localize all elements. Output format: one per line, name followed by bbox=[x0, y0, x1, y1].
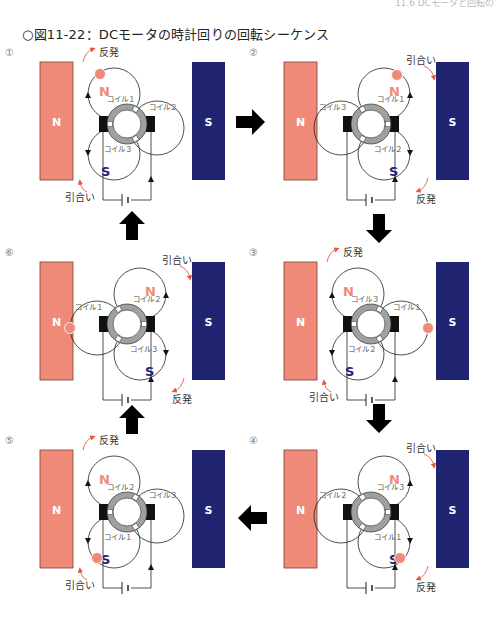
motor-panel-5: ⑤NSコイル２コイル３コイル１NS反発引合い bbox=[5, 434, 225, 594]
coil-bottom-label: コイル１ bbox=[104, 533, 132, 542]
coil-bottom-label: コイル２ bbox=[374, 145, 402, 154]
repel-label: 反発 bbox=[416, 193, 436, 205]
rotor-north-label: N bbox=[389, 84, 400, 99]
coil-side-label: コイル２ bbox=[149, 103, 177, 112]
attract-label: 引合い bbox=[65, 579, 95, 591]
sequence-arrow-icon bbox=[236, 109, 265, 135]
rotor-north-label: N bbox=[145, 284, 156, 299]
arrow-1-to-2 bbox=[236, 109, 265, 135]
motor-sequence-diagram: ①NSコイル１コイル２コイル３NS反発引合い②NSコイル１コイル３コイル２NS引… bbox=[0, 0, 498, 621]
coil-top-label: コイル３ bbox=[351, 295, 379, 304]
repel-arrow-icon bbox=[83, 437, 93, 450]
commutator-gap bbox=[386, 510, 391, 515]
arrow-6-to-1 bbox=[119, 211, 145, 240]
motor-panel-4: ④NSコイル３コイル２コイル１NS引合い反発 bbox=[249, 435, 469, 594]
south-label: S bbox=[449, 316, 457, 329]
brush-right bbox=[390, 116, 399, 132]
step-number: ⑤ bbox=[5, 435, 14, 446]
brush-right bbox=[390, 316, 399, 332]
sequence-arrow-icon bbox=[119, 405, 145, 434]
step-number: ① bbox=[5, 47, 14, 58]
arrow-4-to-5 bbox=[238, 505, 267, 531]
pole-marker bbox=[92, 553, 103, 564]
sequence-arrow-icon bbox=[366, 404, 392, 433]
brush-left bbox=[343, 116, 352, 132]
coil-bottom-label: コイル３ bbox=[104, 145, 132, 154]
rotor-north-label: N bbox=[99, 84, 110, 99]
step-number: ④ bbox=[249, 435, 258, 446]
pole-marker bbox=[392, 70, 403, 81]
coil-side-label: コイル２ bbox=[319, 491, 347, 500]
north-label: N bbox=[296, 116, 305, 129]
attract-label: 引合い bbox=[406, 442, 436, 454]
attract-arrow-icon bbox=[424, 454, 434, 466]
sequence-arrow-icon bbox=[238, 505, 267, 531]
coil-bottom-label: コイル２ bbox=[348, 345, 376, 354]
arrow-3-to-4 bbox=[366, 404, 392, 433]
north-label: N bbox=[52, 116, 61, 129]
motor-panel-2: ②NSコイル１コイル３コイル２NS引合い反発 bbox=[249, 47, 469, 206]
brush-left bbox=[343, 316, 352, 332]
coil-side-label: コイル３ bbox=[319, 103, 347, 112]
repel-label: 反発 bbox=[172, 393, 192, 405]
repel-label: 反発 bbox=[99, 46, 119, 58]
brush-left bbox=[343, 504, 352, 520]
sequence-arrow-icon bbox=[366, 214, 392, 243]
attract-arrow-icon bbox=[80, 182, 87, 192]
coil-top-label: コイル２ bbox=[107, 483, 135, 492]
sequence-arrow-icon bbox=[119, 211, 145, 240]
rotor-south-label: S bbox=[345, 364, 354, 379]
brush-right bbox=[146, 116, 155, 132]
repel-label: 反発 bbox=[99, 434, 119, 446]
attract-arrow-icon bbox=[180, 266, 190, 278]
north-label: N bbox=[296, 316, 305, 329]
south-label: S bbox=[449, 116, 457, 129]
commutator-gap bbox=[386, 122, 391, 127]
rotor-south-label: S bbox=[389, 164, 398, 179]
rotor-north-label: N bbox=[99, 472, 110, 487]
motor-panel-1: ①NSコイル１コイル２コイル３NS反発引合い bbox=[5, 46, 225, 206]
north-label: N bbox=[52, 504, 61, 517]
south-label: S bbox=[205, 504, 213, 517]
rotor-north-label: N bbox=[389, 472, 400, 487]
coil-side-label: コイル１ bbox=[393, 303, 421, 312]
repel-arrow-icon bbox=[418, 566, 428, 579]
rotor-north-label: N bbox=[343, 284, 354, 299]
arrow-2-to-3 bbox=[366, 214, 392, 243]
step-number: ③ bbox=[249, 247, 258, 258]
repel-arrow-icon bbox=[327, 249, 337, 262]
attract-label: 引合い bbox=[65, 191, 95, 203]
rotor-south-label: S bbox=[145, 364, 154, 379]
attract-arrow-icon bbox=[80, 570, 87, 580]
commutator-gap bbox=[108, 510, 113, 515]
repel-label: 反発 bbox=[343, 246, 363, 258]
commutator-gap bbox=[352, 322, 357, 327]
coil-side-label: コイル３ bbox=[149, 491, 177, 500]
step-number: ⑥ bbox=[5, 247, 14, 258]
attract-label: 引合い bbox=[309, 391, 339, 403]
south-label: S bbox=[205, 116, 213, 129]
attract-label: 引合い bbox=[162, 254, 192, 266]
motor-panel-3: ③NSコイル３コイル１コイル２NS反発引合い bbox=[249, 246, 469, 406]
pole-marker bbox=[95, 69, 106, 80]
motor-panel-6: ⑥NSコイル２コイル１コイル３NS引合い反発 bbox=[5, 247, 225, 406]
repel-arrow-icon bbox=[174, 378, 184, 391]
north-label: N bbox=[52, 316, 61, 329]
commutator-gap bbox=[108, 122, 113, 127]
arrow-5-to-6 bbox=[119, 405, 145, 434]
repel-arrow-icon bbox=[83, 49, 93, 62]
step-number: ② bbox=[249, 47, 258, 58]
pole-marker bbox=[65, 323, 76, 334]
repel-arrow-icon bbox=[418, 178, 428, 191]
rotor-south-label: S bbox=[101, 164, 110, 179]
coil-bottom-label: コイル３ bbox=[130, 345, 158, 354]
north-label: N bbox=[296, 504, 305, 517]
coil-bottom-label: コイル１ bbox=[374, 533, 402, 542]
brush-right bbox=[390, 504, 399, 520]
south-label: S bbox=[449, 504, 457, 517]
coil-side-label: コイル１ bbox=[75, 303, 103, 312]
commutator-gap bbox=[142, 322, 147, 327]
coil-top-label: コイル１ bbox=[107, 95, 135, 104]
brush-right bbox=[146, 316, 155, 332]
repel-label: 反発 bbox=[416, 581, 436, 593]
